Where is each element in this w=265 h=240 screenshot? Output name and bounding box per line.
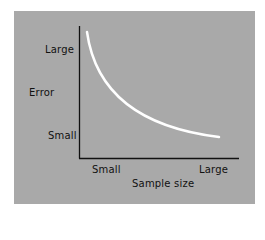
x-axis-label: Sample size (132, 178, 194, 189)
x-tick-large: Large (199, 164, 228, 175)
y-axis-label: Error (29, 87, 54, 98)
y-tick-small: Small (48, 130, 77, 141)
y-tick-large: Large (45, 44, 74, 55)
x-tick-small: Small (92, 164, 121, 175)
error-curve (87, 32, 219, 137)
